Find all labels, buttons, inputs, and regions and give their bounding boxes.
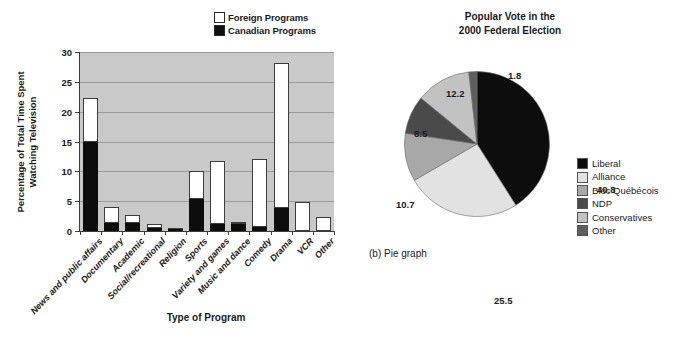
legend-swatch-canadian-icon [214,25,225,36]
legend-label-foreign: Foreign Programs [228,11,308,24]
bar-column [104,207,119,231]
y-axis-title-line1: Percentage of Total Time Spent [15,71,26,212]
pie-chart-svg [404,71,550,217]
pie-legend-item: Bloc Québécois [577,184,659,197]
x-axis-category-label: Other [313,236,337,260]
bar-segment-foreign [125,215,140,223]
bar-column [147,224,162,231]
bar-column [252,159,267,231]
bar-segment-canadian [104,223,119,231]
y-gridline [80,171,334,172]
x-axis-tick [186,231,187,235]
y-axis-tick-label: 5 [67,196,72,207]
pie-legend-label: Alliance [592,170,625,183]
pie-chart-title: Popular Vote in the 2000 Federal Electio… [385,10,635,38]
bar-segment-foreign [316,217,331,231]
y-axis-title-line2: Watching Television [27,96,38,187]
bar-segment-canadian [168,229,183,231]
bar-column [168,229,183,231]
y-axis-tick-label: 10 [61,166,72,177]
pie-legend-item: Alliance [577,170,659,183]
bar-segment-canadian [147,228,162,231]
bar-column [295,202,310,231]
pie-legend-item: NDP [577,197,659,210]
x-axis-tick [207,231,208,235]
pie-legend-swatch-icon [577,158,588,169]
bar-segment-canadian [274,208,289,231]
y-axis-tick [75,112,80,113]
bar-segment-canadian [231,224,246,231]
bar-column [316,217,331,231]
x-axis-tick [249,231,250,235]
x-axis-tick [271,231,272,235]
pie-legend-label: NDP [592,197,612,210]
pie-legend-label: Conservatives [592,211,652,224]
x-axis-tick [165,231,166,235]
y-gridline [80,52,334,53]
y-gridline [80,112,334,113]
y-axis-tick [75,142,80,143]
bar-segment-foreign [210,161,225,224]
pie-slice-value-label: 8.5 [414,128,427,139]
bar-segment-canadian [83,142,98,232]
bar-chart-y-axis-title: Percentage of Total Time Spent Watching … [14,52,40,231]
pie-legend-swatch-icon [577,172,588,183]
bar-column [274,63,289,231]
y-axis-tick-label: 15 [61,136,72,147]
pie-legend-label: Bloc Québécois [592,184,659,197]
y-axis-tick-label: 25 [61,76,72,87]
pie-legend-item: Liberal [577,157,659,170]
pie-legend-swatch-icon [577,185,588,196]
bar-segment-foreign [252,159,267,227]
x-axis-tick [122,231,123,235]
y-gridline [80,142,334,143]
bar-column [83,98,98,231]
pie-legend-label: Other [592,224,616,237]
y-axis-tick [75,171,80,172]
bar-segment-canadian [210,224,225,231]
x-axis-tick [101,231,102,235]
pie-chart-legend: LiberalAllianceBloc QuébécoisNDPConserva… [577,157,659,237]
pie-legend-item: Conservatives [577,211,659,224]
bar-chart-panel: Foreign Programs Canadian Programs Perce… [0,0,345,344]
bar-chart-x-axis-title: Type of Program [79,312,333,323]
bar-column [231,222,246,231]
pie-legend-swatch-icon [577,212,588,223]
x-axis-tick [313,231,314,235]
y-axis-tick [75,201,80,202]
pie-legend-swatch-icon [577,225,588,236]
pie-legend-item: Other [577,224,659,237]
legend-item-foreign: Foreign Programs [214,11,316,24]
bar-column [125,215,140,231]
pie-chart-graphic: 40.825.510.78.512.21.8 [404,71,550,217]
y-axis-tick [75,82,80,83]
y-axis-tick-label: 30 [61,47,72,58]
bar-chart-plot-area: 051015202530News and public affairsDocum… [79,52,334,232]
y-gridline [80,82,334,83]
bar-segment-canadian [189,199,204,231]
legend-swatch-foreign-icon [214,12,225,23]
bar-segment-foreign [83,98,98,142]
y-axis-tick-label: 0 [67,226,72,237]
y-axis-tick-label: 20 [61,106,72,117]
pie-title-line2: 2000 Federal Election [459,25,561,36]
bar-segment-canadian [252,227,267,231]
bar-chart-legend: Foreign Programs Canadian Programs [214,11,316,37]
x-axis-tick [334,231,335,235]
legend-item-canadian: Canadian Programs [214,24,316,37]
pie-legend-label: Liberal [592,157,621,170]
x-axis-tick [228,231,229,235]
pie-slice-value-label: 12.2 [446,88,465,99]
bar-segment-foreign [104,207,119,223]
pie-chart-panel: Popular Vote in the 2000 Federal Electio… [345,0,681,344]
pie-slice-value-label: 10.7 [396,199,415,210]
bar-segment-canadian [125,223,140,231]
pie-chart-caption: (b) Pie graph [369,248,427,259]
pie-slice-value-label: 25.5 [494,295,513,306]
x-axis-tick [80,231,81,235]
x-axis-tick [292,231,293,235]
pie-title-line1: Popular Vote in the [465,11,555,22]
bar-segment-foreign [295,202,310,231]
bar-segment-foreign [274,63,289,208]
y-axis-tick [75,52,80,53]
